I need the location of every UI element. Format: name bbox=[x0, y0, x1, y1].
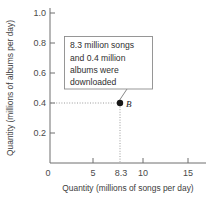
annotation-line-3: albums were bbox=[70, 65, 119, 75]
x-tick-label-0: 0 bbox=[45, 168, 50, 178]
chart-figure: 1.0 0.8 0.6 0.4 0.2 0 5 8.3 10 15 Quanti… bbox=[0, 0, 216, 203]
y-tick-label-0.2: 0.2 bbox=[33, 128, 46, 138]
x-tick-label-10: 10 bbox=[138, 168, 148, 178]
y-tick-label-0.8: 0.8 bbox=[33, 38, 46, 48]
x-tick-label-15: 15 bbox=[183, 168, 193, 178]
data-point-b-group: B bbox=[117, 99, 132, 109]
y-axis-ticks bbox=[50, 13, 55, 133]
annotation-line-4: downloaded bbox=[70, 77, 117, 87]
annotation-line-1: 8.3 million songs bbox=[70, 40, 134, 50]
data-point-b-label: B bbox=[126, 99, 132, 109]
guide-lines-group bbox=[51, 103, 120, 162]
x-axis-tick-labels: 0 5 8.3 10 15 bbox=[45, 168, 193, 178]
annotation-callout: 8.3 million songs and 0.4 million albums… bbox=[65, 37, 153, 102]
x-axis-title: Quantity (millions of songs per day) bbox=[62, 183, 193, 193]
y-tick-label-1.0: 1.0 bbox=[33, 8, 46, 18]
data-point-b bbox=[117, 100, 123, 106]
scatter-plot-canvas: 1.0 0.8 0.6 0.4 0.2 0 5 8.3 10 15 Quanti… bbox=[0, 0, 216, 203]
y-axis-tick-labels: 1.0 0.8 0.6 0.4 0.2 bbox=[33, 8, 46, 138]
y-axis-title: Quantity (millions of albums per day) bbox=[5, 20, 15, 156]
x-tick-label-8.3: 8.3 bbox=[115, 168, 128, 178]
x-axis-ticks bbox=[93, 158, 188, 163]
x-tick-label-5: 5 bbox=[90, 168, 95, 178]
y-tick-label-0.4: 0.4 bbox=[33, 98, 46, 108]
annotation-line-2: and 0.4 million bbox=[70, 53, 126, 63]
y-tick-label-0.6: 0.6 bbox=[33, 68, 46, 78]
